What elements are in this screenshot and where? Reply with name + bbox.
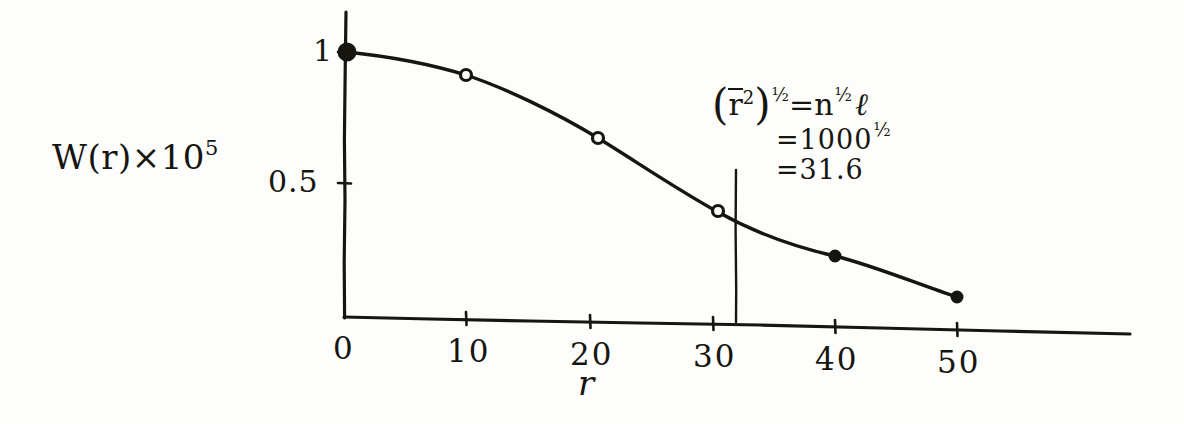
rms-annotation: (r2)½=n½ℓ =1000½ =31.6 [712, 78, 892, 184]
annotation-close-paren: ) [754, 80, 770, 129]
x-tick-20 [590, 315, 591, 328]
annotation-value-31-6: =31.6 [776, 154, 864, 185]
data-point-r40 [830, 251, 841, 262]
annotation-script-l: ℓ [852, 86, 868, 122]
x-tick-label-10: 10 [447, 336, 490, 367]
annotation-line-3: =31.6 [776, 155, 892, 184]
y-tick-0-5 [338, 183, 351, 184]
data-point-r10 [461, 70, 472, 81]
x-tick-40 [835, 320, 836, 333]
x-tick-label-30: 30 [693, 341, 736, 372]
annotation-line-2: =1000½ [776, 123, 892, 154]
rms-vertical-line [736, 170, 737, 322]
data-point-r0 [339, 44, 356, 61]
annotation-line-1: (r2)½=n½ℓ [712, 78, 892, 123]
x-tick-10 [466, 312, 467, 325]
x-tick-label-0: 0 [333, 333, 355, 364]
annotation-equals-n: =n [789, 87, 833, 122]
handdrawn-chart-figure: W(r)×105 1 0.5 0 10 20 30 40 50 r (r2)½=… [0, 0, 1184, 424]
y-tick-label-0-5: 0.5 [268, 167, 319, 197]
y-tick-label-1: 1 [313, 36, 333, 66]
x-tick-30 [713, 317, 714, 330]
x-axis-title: r [578, 366, 594, 400]
y-axis-title-exponent: 5 [205, 136, 219, 160]
annotation-half-exponent-1: ½ [771, 84, 789, 105]
y-axis-title: W(r)×105 [52, 140, 219, 174]
annotation-half-exponent-3: ½ [872, 119, 891, 140]
x-tick-label-40: 40 [815, 344, 858, 375]
annotation-value-1000: =1000 [776, 124, 872, 155]
data-point-r20 [593, 133, 604, 144]
x-tick-50 [957, 323, 958, 336]
y-axis-title-main: W(r)×10 [52, 137, 205, 177]
annotation-r-exponent: 2 [743, 87, 754, 108]
data-point-r50 [952, 292, 963, 303]
data-point-r30 [713, 206, 724, 217]
annotation-r-bar: r [728, 88, 742, 120]
x-tick-label-50: 50 [937, 347, 980, 378]
annotation-open-paren: ( [712, 80, 728, 129]
annotation-half-exponent-2: ½ [834, 84, 852, 105]
